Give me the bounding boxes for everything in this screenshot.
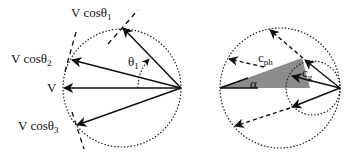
- tangent-line-3: [72, 112, 84, 149]
- label-v-cos-theta1: V cosθ1: [71, 6, 111, 22]
- arrow-phase-1: [270, 30, 303, 58]
- arrow-group-3: [292, 88, 340, 107]
- label-c-ph: cph: [258, 51, 273, 67]
- label-v-cos-theta3: V cosθ3: [18, 119, 58, 135]
- label-c-g: cg: [302, 66, 312, 82]
- label-v-cos-theta2: V cosθ2: [11, 52, 51, 68]
- label-alpha: α: [250, 77, 257, 90]
- arrow-v-cos2: [72, 60, 181, 88]
- label-v: V: [47, 81, 56, 94]
- arrow-v-cos3: [77, 88, 181, 125]
- label-theta1: θ1: [128, 55, 139, 71]
- theta1-arc: [138, 59, 149, 88]
- right-diagram: [220, 28, 340, 148]
- left-diagram: [63, 10, 181, 149]
- arrow-phase-3: [235, 108, 290, 126]
